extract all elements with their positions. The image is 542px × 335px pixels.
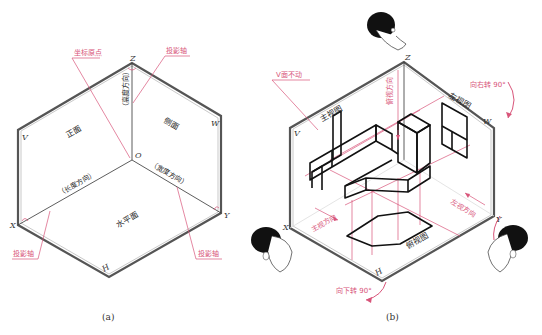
side-plane-label: 侧面 xyxy=(162,115,181,132)
origin-callout: 坐标原点 xyxy=(74,48,102,57)
box-outline-a xyxy=(18,63,221,277)
projection-diagram: 坐标原点 投影轴 投影轴 投影轴 Z X Y O V W H 正面 侧面 水平面… xyxy=(0,0,542,335)
horizontal-plane-label: 水平面 xyxy=(114,209,140,230)
v-fixed-callout: V面不动 xyxy=(276,70,302,79)
axis-label-y-b: Y xyxy=(496,215,502,224)
axis-label-z-b: Z xyxy=(404,53,411,62)
observer-head-top xyxy=(367,12,406,50)
plane-label-v-b: V xyxy=(294,129,301,138)
front-view-outline xyxy=(312,111,341,190)
y-axis-a xyxy=(132,160,221,213)
front-view-label: 主视图 xyxy=(318,103,344,124)
caption-a: (a) xyxy=(102,312,114,322)
left-direction-label: 左视方向 xyxy=(449,197,478,219)
axis-label-y-a: Y xyxy=(224,211,230,220)
height-direction-label: （高度方向） xyxy=(121,68,130,110)
proj-axis-callout-top: 投影轴 xyxy=(166,46,187,55)
front-direction-label: 主视方向 xyxy=(310,212,339,234)
plane-label-v-a: V xyxy=(22,133,29,142)
x-axis-a xyxy=(18,160,132,225)
observer-head-left xyxy=(251,227,292,272)
rotate-right-callout: 向右转 90° xyxy=(470,80,506,89)
left-view-outline xyxy=(442,103,467,158)
rotate-down-callout: 向下转 90° xyxy=(336,286,372,295)
figure-a: 坐标原点 投影轴 投影轴 投影轴 Z X Y O V W H 正面 侧面 水平面… xyxy=(9,46,230,322)
caption-b: (b) xyxy=(386,312,399,322)
proj-axis-callout-right: 投影轴 xyxy=(198,249,219,258)
axis-label-x-a: X xyxy=(9,221,16,230)
axis-label-z-a: Z xyxy=(129,54,136,63)
plane-label-w-a: W xyxy=(211,119,220,128)
axis-label-x-b: X xyxy=(282,223,289,232)
axis-label-o-a: O xyxy=(135,151,142,160)
front-plane-label: 正面 xyxy=(65,124,83,140)
proj-axis-callout-left: 投影轴 xyxy=(13,249,34,258)
top-view-label: 俯视图 xyxy=(404,230,430,251)
top-direction-label: 俯视方向 xyxy=(385,77,394,105)
figure-b: V面不动 向右转 90° 向下转 90° Z X Y V W H 主视图 左视图… xyxy=(251,12,528,322)
plane-label-w-b: W xyxy=(483,117,492,126)
